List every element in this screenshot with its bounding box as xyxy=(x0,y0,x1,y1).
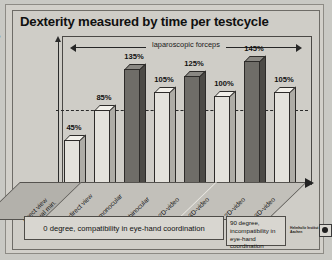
bar-value-label: 85% xyxy=(84,93,124,102)
bar-value-label: 45% xyxy=(54,123,94,132)
bar-front-face xyxy=(154,92,170,188)
bar-6: 145% xyxy=(244,61,260,188)
logo-mark-icon xyxy=(319,224,332,237)
bar-2: 135% xyxy=(124,69,140,188)
bar-value-label: 145% xyxy=(234,44,274,53)
bar-side-face xyxy=(290,87,296,188)
bar-front-face xyxy=(124,69,140,188)
bar-value-label: 100% xyxy=(204,79,244,88)
bar-side-face xyxy=(110,105,116,188)
logo-line2: Aachen xyxy=(290,230,302,234)
bar-front-face xyxy=(94,110,110,188)
bar-3: 105% xyxy=(154,92,170,188)
bar-side-face xyxy=(80,135,86,188)
x-axis-arrow-icon xyxy=(305,178,314,188)
bar-side-face xyxy=(230,91,236,188)
bar-side-face xyxy=(170,87,176,188)
institute-logo: Helmholtz Institut Aachen xyxy=(290,220,318,240)
bar-value-label: 105% xyxy=(264,75,304,84)
bar-front-face xyxy=(184,76,200,188)
chart-title: Dexterity measured by time per testcycle xyxy=(20,14,312,29)
bar-front-face xyxy=(274,92,290,188)
bar-5: 100% xyxy=(214,96,230,188)
bar-front-face xyxy=(214,96,230,188)
bar-1: 85% xyxy=(94,110,110,188)
bar-series: 45% 85% 135% 105% 125% xyxy=(58,40,310,188)
logo-text: Helmholtz Institut Aachen xyxy=(290,226,318,235)
bar-0: 45% xyxy=(64,140,80,188)
bar-front-face xyxy=(64,140,80,188)
caption-left: 0 degree, compatibility in eye-hand coor… xyxy=(24,216,224,240)
bar-4: 125% xyxy=(184,76,200,188)
bar-side-face xyxy=(200,71,206,188)
bar-front-face xyxy=(244,61,260,188)
bar-value-label: 125% xyxy=(174,59,214,68)
bar-value-label: 135% xyxy=(114,52,154,61)
bar-value-label: 105% xyxy=(144,75,184,84)
bar-7: 105% xyxy=(274,92,290,188)
caption-right: 90 degree, incompatibility in eye-hand c… xyxy=(226,216,286,246)
